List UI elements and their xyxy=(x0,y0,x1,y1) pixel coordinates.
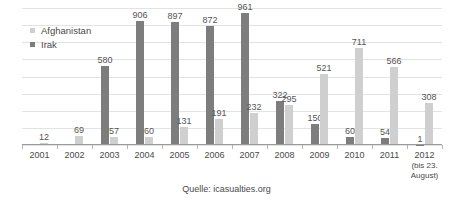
x-axis-tick xyxy=(267,145,268,149)
x-axis-tick xyxy=(337,145,338,149)
bar-value-label: 711 xyxy=(352,37,366,47)
bar-value-label: 897 xyxy=(167,11,182,21)
x-axis-label-2012: 2012(bis 23. August) xyxy=(402,150,448,180)
bar-afghanistan-2008[interactable]: 295 xyxy=(285,105,293,145)
legend-label-afghanistan: Afghanistan xyxy=(41,25,91,36)
x-axis-label-text: 2009 xyxy=(309,150,329,160)
bar-group: 961232 xyxy=(241,8,258,145)
bar-afghanistan-2012[interactable]: 308 xyxy=(425,103,433,145)
bar-value-label: 521 xyxy=(316,63,331,73)
bar-value-label: 566 xyxy=(386,56,401,66)
legend-item-afghanistan[interactable]: Afghanistan xyxy=(30,24,91,37)
gridline xyxy=(22,59,442,60)
bar-irak-2009[interactable]: 150 xyxy=(311,124,319,145)
bar-group: 872191 xyxy=(206,8,223,145)
bar-value-label: 57 xyxy=(109,126,119,136)
x-axis-tick xyxy=(232,145,233,149)
bar-value-label: 60 xyxy=(345,126,355,136)
bar-afghanistan-2006[interactable]: 191 xyxy=(215,119,223,145)
bar-value-label: 295 xyxy=(281,94,296,104)
bar-value-label: 872 xyxy=(202,15,217,25)
x-axis-label-text: 2001 xyxy=(29,150,49,160)
x-axis-tick xyxy=(22,145,23,149)
x-axis-tick xyxy=(407,145,408,149)
legend-item-irak[interactable]: Irak xyxy=(30,38,91,51)
bar-group: 1308 xyxy=(416,8,433,145)
bar-group: 897131 xyxy=(171,8,188,145)
bar-value-label: 12 xyxy=(39,132,49,142)
bar-value-label: 961 xyxy=(237,2,252,12)
x-axis-label-text: 2006 xyxy=(204,150,224,160)
bar-irak-2004[interactable]: 906 xyxy=(136,21,144,145)
bar-afghanistan-2007[interactable]: 232 xyxy=(250,113,258,145)
x-axis-tick xyxy=(442,145,443,149)
bar-irak-2006[interactable]: 872 xyxy=(206,26,214,145)
x-axis-label-text: 2008 xyxy=(274,150,294,160)
x-axis-tick xyxy=(197,145,198,149)
x-axis-label-text: 2012 xyxy=(414,150,434,160)
x-axis-tick xyxy=(162,145,163,149)
legend-swatch-afghanistan-icon xyxy=(30,28,35,33)
x-axis-tick xyxy=(127,145,128,149)
x-axis-label-text: 2007 xyxy=(239,150,259,160)
bar-afghanistan-2005[interactable]: 131 xyxy=(180,127,188,145)
bar-afghanistan-2009[interactable]: 521 xyxy=(320,74,328,145)
bar-group: 322295 xyxy=(276,8,293,145)
bar-value-label: 232 xyxy=(246,102,261,112)
x-axis-tick xyxy=(302,145,303,149)
bar-chart: 1269580579066089713187219196123232229515… xyxy=(0,0,453,206)
bar-value-label: 191 xyxy=(211,108,226,118)
x-axis-tick xyxy=(372,145,373,149)
bar-value-label: 580 xyxy=(97,55,112,65)
x-axis-label-text: 2005 xyxy=(169,150,189,160)
legend-label-irak: Irak xyxy=(41,39,57,50)
x-axis-label-text: 2003 xyxy=(99,150,119,160)
x-axis-label-text: 2002 xyxy=(64,150,84,160)
bar-afghanistan-2011[interactable]: 566 xyxy=(390,67,398,145)
bar-value-label: 54 xyxy=(380,127,390,137)
bar-afghanistan-2010[interactable]: 711 xyxy=(355,48,363,145)
gridline xyxy=(22,77,442,78)
bar-value-label: 69 xyxy=(74,125,84,135)
bar-irak-2005[interactable]: 897 xyxy=(171,22,179,145)
bar-group: 60711 xyxy=(346,8,363,145)
bar-irak-2008[interactable]: 322 xyxy=(276,101,284,145)
gridline xyxy=(22,94,442,95)
bar-value-label: 308 xyxy=(421,92,436,102)
legend-swatch-irak-icon xyxy=(30,42,35,47)
x-axis-label-text: 2004 xyxy=(134,150,154,160)
bar-value-label: 906 xyxy=(132,10,147,20)
chart-legend: Afghanistan Irak xyxy=(30,24,91,52)
gridline xyxy=(22,111,442,112)
bar-group: 150521 xyxy=(311,8,328,145)
bar-group: 90660 xyxy=(136,8,153,145)
bar-group: 54566 xyxy=(381,8,398,145)
chart-caption: Quelle: icasualties.org xyxy=(0,184,453,195)
bar-value-label: 1 xyxy=(417,134,422,144)
gridline xyxy=(22,8,442,9)
x-axis-sublabel-text: (bis 23. August) xyxy=(402,161,448,180)
bar-group: 58057 xyxy=(101,8,118,145)
bar-value-label: 131 xyxy=(176,116,191,126)
x-axis-tick xyxy=(92,145,93,149)
bar-irak-2007[interactable]: 961 xyxy=(241,13,249,145)
bar-value-label: 60 xyxy=(144,126,154,136)
x-axis-tick xyxy=(57,145,58,149)
bar-irak-2003[interactable]: 580 xyxy=(101,66,109,145)
x-axis-label-text: 2010 xyxy=(344,150,364,160)
x-axis-label-text: 2011 xyxy=(380,150,399,160)
